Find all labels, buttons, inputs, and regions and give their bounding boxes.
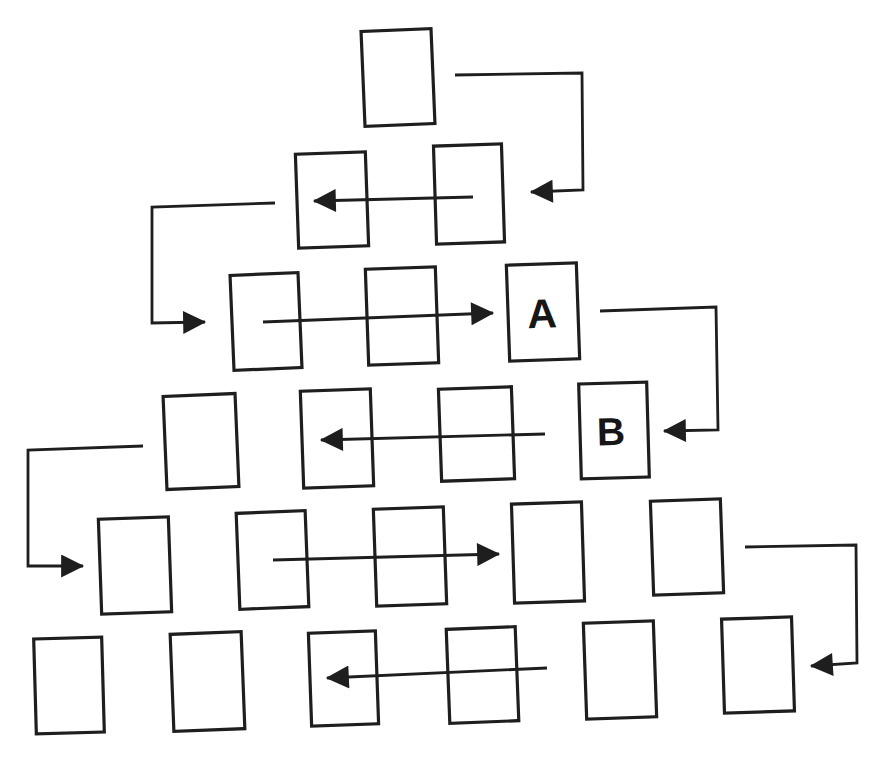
- row-2: [295, 144, 504, 248]
- box-r6c2: [170, 632, 245, 732]
- box-r6c1: [34, 637, 105, 734]
- box-r6c4: [446, 627, 519, 724]
- box-b: B: [579, 382, 650, 479]
- box-r4c1: [163, 394, 239, 490]
- box-r5c4: [511, 502, 584, 603]
- box-a: A: [506, 263, 579, 361]
- pyramid-serpentine-diagram: A B: [0, 0, 873, 763]
- box-r1c1: [361, 29, 435, 127]
- box-r2c2: [433, 144, 504, 244]
- label-b: B: [596, 410, 625, 454]
- label-a: A: [526, 290, 557, 337]
- box-r6c5: [583, 621, 656, 719]
- row-4: B: [163, 382, 649, 489]
- box-r5c5: [650, 499, 723, 595]
- row-1: [361, 29, 435, 127]
- box-r6c6: [722, 617, 795, 713]
- scanned-figure: A B: [0, 0, 873, 763]
- box-r5c1: [98, 517, 171, 614]
